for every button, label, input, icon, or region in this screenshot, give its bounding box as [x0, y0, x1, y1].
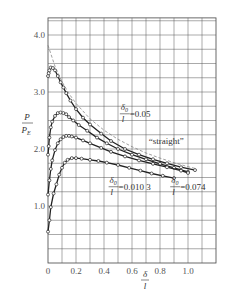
- x-tick-label: 1.0: [182, 266, 194, 276]
- data-point-marker: [124, 148, 127, 151]
- data-point-marker: [145, 158, 148, 161]
- svg-text:δ0: δ0: [171, 175, 178, 186]
- svg-text:=0.074: =0.074: [180, 182, 206, 192]
- data-point-marker: [86, 129, 89, 132]
- data-point-marker: [96, 136, 99, 139]
- data-point-marker: [89, 142, 92, 145]
- data-point-marker: [166, 166, 169, 169]
- data-point-marker: [65, 92, 68, 95]
- data-point-marker: [180, 166, 183, 169]
- data-point-marker: [55, 183, 58, 186]
- svg-text:δ0: δ0: [121, 102, 128, 113]
- data-point-marker: [72, 119, 75, 122]
- data-point-marker: [105, 142, 108, 145]
- x-tick-label: 0.4: [98, 266, 110, 276]
- svg-text:=0.05: =0.05: [130, 109, 151, 119]
- data-point-marker: [54, 149, 57, 152]
- data-point-marker: [150, 172, 153, 175]
- data-point-marker: [51, 120, 54, 123]
- data-point-marker: [131, 153, 134, 156]
- data-point-marker: [128, 166, 131, 169]
- data-point-marker: [180, 169, 183, 172]
- data-point-marker: [100, 146, 103, 149]
- data-point-marker: [51, 159, 54, 162]
- curve-label: δ0l=0.010 3: [109, 175, 152, 197]
- data-point-marker: [52, 192, 55, 195]
- data-point-marker: [138, 159, 141, 162]
- grid: [48, 18, 216, 263]
- data-point-marker: [75, 136, 78, 139]
- y-tick-label: 2.0: [34, 144, 46, 154]
- data-point-marker: [100, 132, 103, 135]
- data-point-marker: [54, 114, 57, 117]
- data-point-marker: [66, 158, 69, 161]
- svg-text:l: l: [122, 114, 125, 124]
- data-point-marker: [48, 136, 51, 139]
- data-point-marker: [166, 162, 169, 165]
- svg-text:l: l: [144, 281, 147, 291]
- data-point-marker: [117, 148, 120, 151]
- data-point-marker: [47, 230, 50, 233]
- data-point-marker: [65, 113, 68, 116]
- x-tick-label: 0.8: [154, 266, 166, 276]
- data-point-marker: [77, 124, 80, 127]
- data-point-marker: [49, 206, 52, 209]
- y-tick-label: 1.0: [34, 201, 46, 211]
- data-point-marker: [124, 155, 127, 158]
- data-point-marker: [110, 140, 113, 143]
- chart: 00.20.40.60.81.01.02.03.04.0 δ0l=0.05“st…: [0, 0, 226, 304]
- svg-text:P: P: [23, 112, 30, 122]
- data-point-marker: [68, 116, 71, 119]
- data-point-marker: [152, 158, 155, 161]
- data-point-marker: [82, 116, 85, 119]
- data-point-marker: [49, 126, 52, 129]
- data-point-marker: [89, 123, 92, 126]
- data-point-marker: [139, 169, 142, 172]
- data-point-marker: [187, 171, 190, 174]
- data-point-marker: [117, 163, 120, 166]
- x-axis-label: δ l: [141, 269, 149, 291]
- data-point-marker: [161, 174, 164, 177]
- data-point-marker: [89, 158, 92, 161]
- x-tick-label: 0.6: [126, 266, 138, 276]
- data-point-marker: [56, 142, 59, 145]
- data-point-marker: [105, 161, 108, 164]
- data-point-marker: [82, 139, 85, 142]
- x-tick-label: 0.2: [70, 266, 81, 276]
- data-point-marker: [70, 157, 73, 160]
- data-point-marker: [47, 193, 50, 196]
- data-point-marker: [69, 99, 72, 102]
- data-point-marker: [70, 135, 73, 138]
- curve-label: “straight”: [149, 136, 184, 146]
- data-point-marker: [63, 161, 66, 164]
- data-point-marker: [194, 169, 197, 172]
- data-point-marker: [59, 138, 62, 141]
- data-point-marker: [58, 173, 61, 176]
- data-point-marker: [75, 108, 78, 111]
- data-point-marker: [49, 167, 52, 170]
- data-point-marker: [75, 157, 78, 160]
- y-tick-label: 3.0: [34, 87, 46, 97]
- svg-text:PE: PE: [20, 125, 31, 136]
- data-point-marker: [48, 219, 51, 222]
- data-point-marker: [80, 157, 83, 160]
- y-axis-label: P PE: [20, 112, 33, 136]
- data-point-marker: [61, 166, 64, 169]
- data-point-marker: [59, 81, 62, 84]
- data-point-marker: [62, 86, 65, 89]
- svg-text:δ0: δ0: [110, 175, 117, 186]
- data-point-marker: [47, 145, 50, 148]
- data-point-marker: [138, 153, 141, 156]
- svg-text:=0.010 3: =0.010 3: [119, 182, 152, 192]
- svg-text:δ: δ: [143, 269, 148, 279]
- data-point-marker: [97, 159, 100, 162]
- data-point-marker: [47, 153, 50, 156]
- y-tick-label: 4.0: [34, 30, 46, 40]
- data-point-marker: [152, 162, 155, 165]
- data-point-marker: [110, 150, 113, 153]
- data-point-marker: [48, 179, 51, 182]
- x-tick-label: 0: [46, 266, 51, 276]
